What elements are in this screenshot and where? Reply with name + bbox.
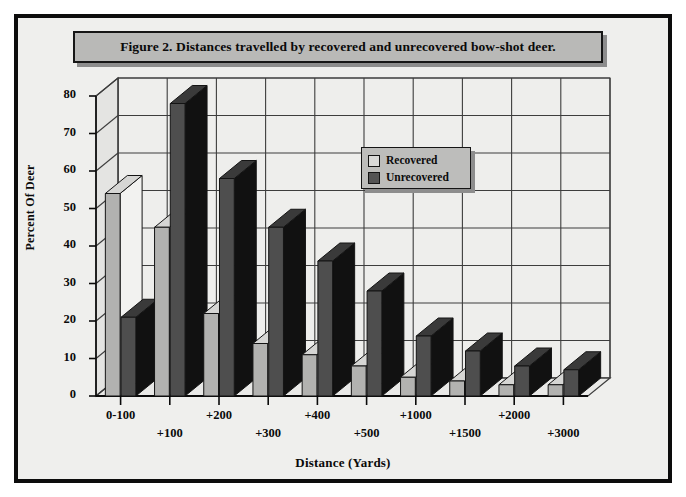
legend-item-recovered: Recovered — [368, 152, 470, 169]
legend-swatch-unrecovered — [368, 172, 380, 184]
x-tick-1000: +1000 — [381, 408, 451, 423]
y-axis-title: Percent Of Deer — [23, 118, 38, 298]
x-tick-300: +300 — [233, 426, 303, 441]
x-tick-3000: +3000 — [528, 426, 598, 441]
x-tick-200: +200 — [184, 408, 254, 423]
x-tick-100: +100 — [135, 426, 205, 441]
chart-legend: Recovered Unrecovered — [361, 147, 471, 189]
x-tick-2000: +2000 — [479, 408, 549, 423]
x-tick-400: +400 — [282, 408, 352, 423]
legend-item-unrecovered: Unrecovered — [368, 169, 470, 186]
x-tick-1500: +1500 — [430, 426, 500, 441]
x-axis-ticks: 0-100+100+200+300+400+500+1000+1500+2000… — [0, 0, 686, 497]
legend-label-unrecovered: Unrecovered — [386, 172, 449, 184]
x-tick-500: +500 — [332, 426, 402, 441]
figure-container: Figure 2. Distances travelled by recover… — [0, 0, 686, 497]
x-axis-title: Distance (Yards) — [0, 455, 686, 471]
legend-swatch-recovered — [368, 155, 380, 167]
legend-label-recovered: Recovered — [386, 155, 438, 167]
x-tick-0-100: 0-100 — [86, 408, 156, 423]
